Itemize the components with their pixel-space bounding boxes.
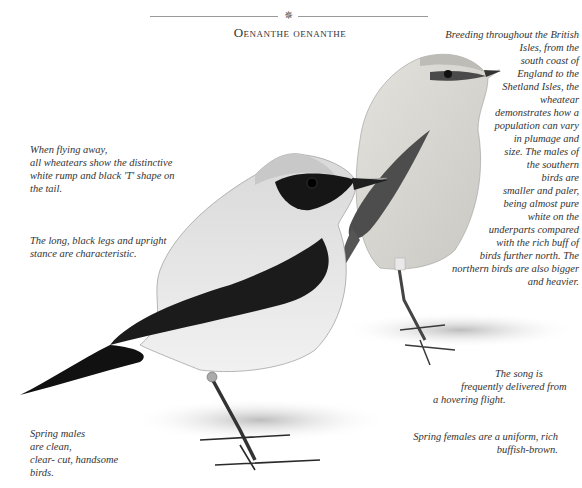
- caption-line: Shetland Isles, the: [399, 80, 579, 93]
- caption-line: white on the: [399, 210, 579, 223]
- caption-line: are clean,: [30, 440, 118, 453]
- caption-breeding: Breeding throughout the British Isles, f…: [399, 28, 579, 288]
- female-ground-shadow: [340, 312, 580, 348]
- caption-line: Breeding throughout the British: [399, 28, 579, 41]
- caption-line: size. The males of: [399, 145, 579, 158]
- caption-line: the southern: [399, 158, 579, 171]
- caption-line: birds.: [30, 466, 118, 479]
- caption-line: and heavier.: [399, 275, 579, 288]
- caption-line: wheatear: [399, 93, 579, 106]
- caption-line: The song is: [495, 367, 543, 380]
- caption-line: a hovering flight.: [433, 393, 506, 406]
- caption-spring-females: Spring females are a uniform, rich buffi…: [358, 430, 558, 456]
- caption-line: The long, black legs and upright: [30, 234, 167, 247]
- caption-line: Spring males: [30, 427, 118, 440]
- caption-line: in plumage and: [399, 132, 579, 145]
- caption-line: Spring females are a uniform, rich: [358, 430, 558, 443]
- caption-line: England to the: [399, 67, 579, 80]
- male-ground-shadow: [130, 398, 390, 442]
- caption-line: white rump and black 'T' shape on: [30, 169, 174, 182]
- caption-line: buffish-brown.: [358, 443, 558, 456]
- caption-line: frequently delivered from: [461, 380, 567, 393]
- caption-line: smaller and paler,: [399, 184, 579, 197]
- caption-line: clear- cut, handsome: [30, 453, 118, 466]
- caption-line: demonstrates how a: [399, 106, 579, 119]
- caption-legs: The long, black legs and upright stance …: [30, 234, 167, 260]
- caption-line: When flying away,: [30, 143, 174, 156]
- caption-flying-away: When flying away, all wheatears show the…: [30, 143, 174, 195]
- caption-line: northern birds are also bigger: [399, 262, 579, 275]
- caption-line: Isles, from the: [399, 41, 579, 54]
- caption-line: underparts compared: [399, 223, 579, 236]
- caption-line: birds further north. The: [399, 249, 579, 262]
- caption-line: being almost pure: [399, 197, 579, 210]
- caption-line: the tail.: [30, 182, 174, 195]
- caption-line: with the rich buff of: [399, 236, 579, 249]
- caption-line: south coast of: [399, 54, 579, 67]
- caption-spring-males: Spring males are clean, clear- cut, hand…: [30, 427, 118, 479]
- caption-line: all wheatears show the distinctive: [30, 156, 174, 169]
- caption-line: birds are: [399, 171, 579, 184]
- caption-line: population can vary: [399, 119, 579, 132]
- caption-line: stance are characteristic.: [30, 247, 167, 260]
